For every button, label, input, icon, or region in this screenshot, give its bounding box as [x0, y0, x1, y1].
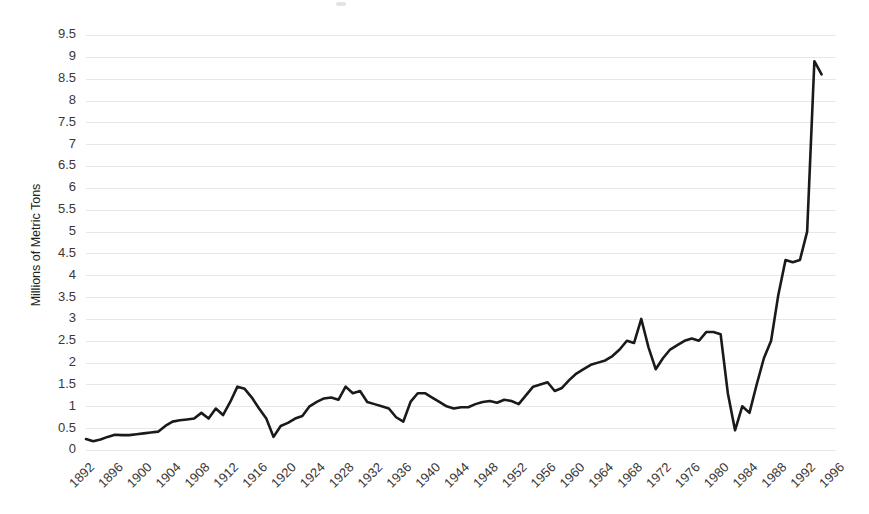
x-tick-label: 1980	[701, 460, 732, 491]
y-tick-label: 7	[69, 136, 76, 151]
y-tick-label: 6	[69, 179, 76, 194]
x-tick-label: 1904	[153, 460, 184, 491]
y-tick-label: 2.5	[58, 332, 76, 347]
x-tick-label: 1908	[181, 460, 212, 491]
x-tick-label: 1896	[95, 460, 126, 491]
x-tick-label: 1928	[326, 460, 357, 491]
x-tick-label: 1996	[816, 460, 847, 491]
y-tick-label: 9	[69, 48, 76, 63]
gridlines	[86, 36, 836, 451]
x-tick-label: 1940	[412, 460, 443, 491]
line-chart: 00.511.522.533.544.555.566.577.588.599.5…	[0, 0, 869, 514]
y-tick-label: 6.5	[58, 157, 76, 172]
y-tick-label: 4.5	[58, 245, 76, 260]
y-axis-title: Millions of Metric Tons	[29, 184, 43, 307]
scan-artifact	[336, 2, 346, 6]
x-tick-label: 1988	[758, 460, 789, 491]
x-tick-label: 1900	[124, 460, 155, 491]
x-tick-label: 1932	[355, 460, 386, 491]
y-tick-label: 7.5	[58, 114, 76, 129]
x-tick-label: 1956	[528, 460, 559, 491]
y-tick-label: 1.5	[58, 376, 76, 391]
y-tick-label: 5.5	[58, 201, 76, 216]
x-tick-label: 1976	[672, 460, 703, 491]
x-tick-label: 1960	[556, 460, 587, 491]
x-tick-label: 1964	[585, 460, 616, 491]
x-axis-tick-labels: 1892189619001904190819121916192019241928…	[66, 460, 847, 491]
x-tick-label: 1916	[239, 460, 270, 491]
x-tick-label: 1924	[297, 460, 328, 491]
x-tick-label: 1912	[210, 460, 241, 491]
x-tick-label: 1892	[66, 460, 97, 491]
x-tick-label: 1992	[787, 460, 818, 491]
y-tick-label: 3	[69, 310, 76, 325]
y-tick-label: 0.5	[58, 420, 76, 435]
x-tick-label: 1936	[383, 460, 414, 491]
y-tick-label: 1	[69, 398, 76, 413]
x-tick-label: 1972	[643, 460, 674, 491]
y-axis-tick-labels: 00.511.522.533.544.555.566.577.588.599.5	[58, 26, 76, 456]
y-tick-label: 8	[69, 92, 76, 107]
x-tick-label: 1968	[614, 460, 645, 491]
x-tick-label: 1944	[441, 460, 472, 491]
y-tick-label: 4	[69, 267, 76, 282]
y-tick-label: 5	[69, 223, 76, 238]
x-tick-label: 1952	[499, 460, 530, 491]
x-tick-label: 1984	[730, 460, 761, 491]
y-tick-label: 3.5	[58, 289, 76, 304]
x-tick-label: 1920	[268, 460, 299, 491]
y-tick-label: 9.5	[58, 26, 76, 41]
x-tick-label: 1948	[470, 460, 501, 491]
y-tick-label: 2	[69, 354, 76, 369]
chart-container: 00.511.522.533.544.555.566.577.588.599.5…	[0, 0, 869, 514]
y-tick-label: 8.5	[58, 70, 76, 85]
y-tick-label: 0	[69, 441, 76, 456]
